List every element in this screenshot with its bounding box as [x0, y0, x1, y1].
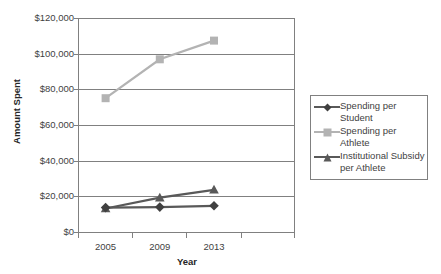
chart-legend: Spending per Student Spending per Athlet… [310, 95, 428, 180]
legend-label: Institutional Subsidy per Athlete [340, 150, 425, 174]
y-tick-label: $0 [2, 227, 74, 237]
data-point-marker [102, 94, 110, 102]
gridlines [78, 19, 295, 197]
legend-marker-diamond-icon [314, 101, 340, 113]
x-tick-label: 2005 [79, 241, 133, 252]
legend-item-spending-per-student[interactable]: Spending per Student [314, 100, 425, 124]
data-point-marker [210, 37, 218, 45]
x-tick-label: 2009 [133, 241, 187, 252]
x-tick-marks [79, 233, 295, 239]
x-tick-label: 2013 [187, 241, 241, 252]
legend-label: Spending per Athlete [340, 125, 425, 149]
x-axis-title: Year [78, 256, 296, 267]
legend-item-institutional-subsidy-per-athlete[interactable]: Institutional Subsidy per Athlete [314, 150, 425, 174]
data-point-marker [209, 201, 219, 211]
legend-label: Spending per Student [340, 100, 425, 124]
y-tick-marks [74, 19, 78, 233]
data-point-marker [209, 185, 219, 194]
series-spending-per-athlete [102, 37, 218, 103]
legend-item-spending-per-athlete[interactable]: Spending per Athlete [314, 125, 425, 149]
y-tick-label: $120,000 [2, 13, 74, 23]
line-chart: $120,000 $100,000 $80,000 $60,000 $40,00… [0, 0, 441, 274]
y-tick-label: $100,000 [2, 49, 74, 59]
data-point-marker [156, 55, 164, 63]
y-axis-title: Amount Spent [11, 62, 22, 162]
legend-marker-square-icon [314, 126, 340, 138]
legend-marker-triangle-icon [314, 151, 340, 163]
series-spending-per-student [101, 201, 219, 212]
data-point-marker [155, 202, 165, 212]
y-tick-label: $20,000 [2, 191, 74, 201]
